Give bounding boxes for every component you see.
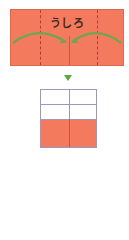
down-arrow-icon [64, 75, 72, 81]
folded-result-grid [40, 89, 97, 148]
fill-divider-line [69, 119, 70, 147]
